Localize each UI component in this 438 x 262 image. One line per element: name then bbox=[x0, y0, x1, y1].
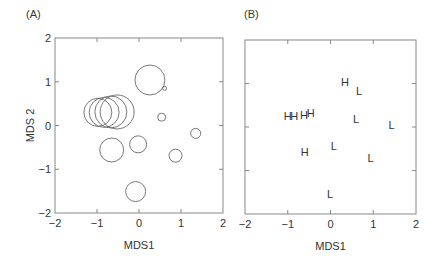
panel-a: (A)−2−1012−2−1012MDS1MDS 2 bbox=[24, 8, 226, 251]
bubble-point bbox=[95, 96, 127, 128]
x-tick-label: 1 bbox=[370, 218, 376, 230]
bubble-point bbox=[169, 149, 182, 162]
x-tick-label: 1 bbox=[178, 217, 184, 229]
x-tick-label: 2 bbox=[413, 218, 419, 230]
x-axis-title: MDS1 bbox=[315, 240, 346, 252]
y-tick-label: −2 bbox=[38, 207, 51, 219]
bubble-point bbox=[163, 86, 167, 90]
x-tick-label: −1 bbox=[281, 218, 294, 230]
letter-point: H bbox=[307, 107, 315, 119]
y-tick-label: 0 bbox=[45, 120, 51, 132]
letter-point: L bbox=[389, 119, 395, 131]
letter-point: L bbox=[327, 188, 333, 200]
x-tick-label: −2 bbox=[239, 218, 252, 230]
bubble-point bbox=[158, 113, 166, 121]
panel-label: (B) bbox=[244, 8, 259, 20]
bubble-point bbox=[100, 95, 134, 129]
panel-b: (B)−2−1012MDS1HLHHHHLLHLLL bbox=[239, 8, 419, 252]
letter-point: H bbox=[290, 110, 298, 122]
y-tick-label: 1 bbox=[45, 76, 51, 88]
letter-point: H bbox=[341, 76, 349, 88]
letter-point: L bbox=[356, 85, 362, 97]
y-axis-title: MDS 2 bbox=[24, 109, 36, 143]
letter-point: L bbox=[353, 113, 359, 125]
x-tick-label: −1 bbox=[91, 217, 104, 229]
bubble-point bbox=[135, 65, 165, 95]
bubble-point bbox=[126, 182, 146, 202]
bubble-point bbox=[130, 136, 147, 153]
mds-figure: (A)−2−1012−2−1012MDS1MDS 2 (B)−2−1012MDS… bbox=[0, 0, 438, 262]
y-tick-label: 2 bbox=[45, 32, 51, 44]
x-tick-label: 0 bbox=[327, 218, 333, 230]
panel-label: (A) bbox=[26, 8, 41, 20]
letter-point: L bbox=[368, 152, 374, 164]
plot-frame bbox=[55, 38, 223, 213]
bubble-point bbox=[100, 138, 124, 162]
x-tick-label: 0 bbox=[136, 217, 142, 229]
letter-point: L bbox=[331, 140, 337, 152]
x-axis-title: MDS1 bbox=[124, 239, 155, 251]
letter-point: H bbox=[301, 146, 309, 158]
bubble-point bbox=[191, 128, 201, 138]
x-tick-label: 2 bbox=[220, 217, 226, 229]
y-tick-label: −1 bbox=[38, 163, 51, 175]
